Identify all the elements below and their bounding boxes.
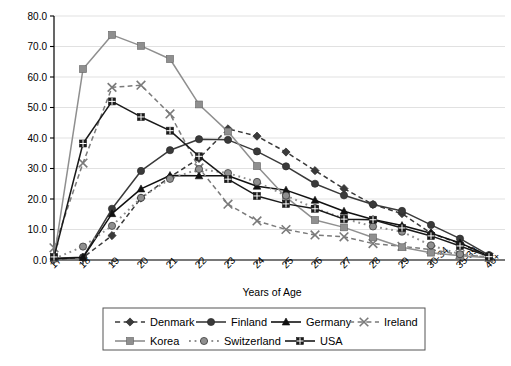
data-point-marker — [341, 224, 348, 231]
data-point-marker — [195, 136, 202, 143]
data-point-marker — [457, 242, 464, 249]
y-tick-label: 20.0 — [28, 194, 48, 205]
data-point-marker — [297, 338, 304, 345]
data-point-marker — [398, 207, 405, 214]
chart-legend: DenmarkFinlandGermanyIrelandKoreaSwitzer… — [103, 308, 425, 350]
data-point-marker — [427, 221, 434, 228]
data-point-marker — [340, 192, 347, 199]
data-point-marker — [137, 167, 144, 174]
y-tick-label: 30.0 — [28, 163, 48, 174]
data-point-marker — [138, 42, 145, 49]
data-point-marker — [311, 180, 318, 187]
data-point-marker — [138, 113, 145, 120]
data-point-marker — [127, 338, 134, 345]
data-point-marker — [486, 253, 493, 260]
data-point-marker — [253, 148, 260, 155]
data-point-marker — [80, 66, 87, 73]
data-point-marker — [427, 242, 434, 249]
data-point-marker — [196, 101, 203, 108]
data-point-marker — [137, 194, 144, 201]
y-tick-label: 40.0 — [28, 133, 48, 144]
data-point-marker — [282, 192, 289, 199]
data-point-marker — [225, 128, 232, 135]
data-point-marker — [196, 153, 203, 160]
data-point-marker — [207, 318, 214, 325]
data-point-marker — [109, 98, 116, 105]
data-point-marker — [51, 253, 58, 260]
y-tick-label: 10.0 — [28, 224, 48, 235]
data-point-marker — [167, 127, 174, 134]
data-point-marker — [399, 224, 406, 231]
data-point-marker — [369, 201, 376, 208]
data-point-marker — [109, 32, 116, 39]
y-tick-label: 60.0 — [28, 72, 48, 83]
data-point-marker — [253, 178, 260, 185]
data-point-marker — [341, 216, 348, 223]
legend-label-denmark: Denmark — [150, 316, 195, 328]
line-chart: 0.010.020.030.040.050.060.070.080.0 1718… — [0, 0, 511, 366]
data-point-marker — [369, 223, 376, 230]
y-tick-label: 50.0 — [28, 102, 48, 113]
data-point-marker — [399, 244, 406, 251]
data-point-marker — [282, 163, 289, 170]
data-point-marker — [224, 136, 231, 143]
y-tick-label: 80.0 — [28, 11, 48, 22]
chart-container: 0.010.020.030.040.050.060.070.080.0 1718… — [0, 0, 511, 366]
y-tick-label: 70.0 — [28, 41, 48, 52]
x-axis-title: Years of Age — [242, 286, 301, 298]
data-point-marker — [312, 217, 319, 224]
data-point-marker — [254, 163, 261, 170]
data-point-marker — [195, 166, 202, 173]
data-point-marker — [456, 251, 463, 258]
data-point-marker — [108, 222, 115, 229]
data-point-marker — [254, 192, 261, 199]
data-point-marker — [370, 216, 377, 223]
data-point-marker — [312, 205, 319, 212]
y-tick-label: 0.0 — [33, 255, 47, 266]
legend-label-usa: USA — [320, 335, 343, 347]
data-point-marker — [166, 175, 173, 182]
data-point-marker — [167, 56, 174, 63]
legend-label-germany: Germany — [306, 316, 352, 328]
legend-label-korea: Korea — [150, 335, 180, 347]
data-point-marker — [225, 176, 232, 183]
data-point-marker — [428, 249, 435, 256]
legend-label-ireland: Ireland — [384, 316, 418, 328]
data-point-marker — [79, 243, 86, 250]
legend-label-finland: Finland — [231, 316, 267, 328]
data-point-marker — [80, 140, 87, 147]
data-point-marker — [370, 234, 377, 241]
legend-label-switzerland: Switzerland — [224, 335, 281, 347]
data-point-marker — [166, 147, 173, 154]
data-point-marker — [428, 232, 435, 239]
data-point-marker — [283, 200, 290, 207]
data-point-marker — [200, 337, 207, 344]
